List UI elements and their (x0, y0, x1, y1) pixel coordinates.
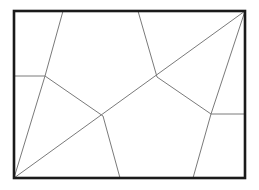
partition-diagram-svg (0, 0, 259, 190)
diagram-canvas (0, 0, 259, 190)
